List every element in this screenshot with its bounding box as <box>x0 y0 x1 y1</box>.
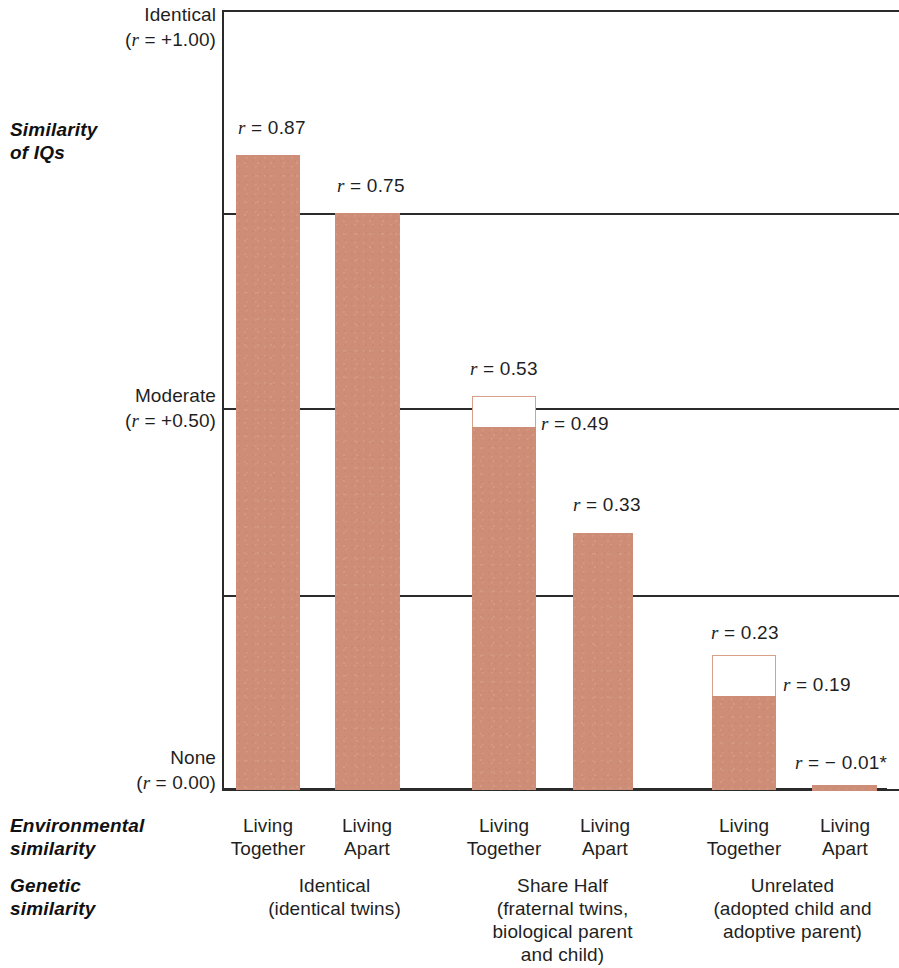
genetic-group-share-half: Share Half (fraternal twins, biological … <box>455 874 670 966</box>
gridline-baseline-0-00 <box>222 789 899 791</box>
bar-label-identical-together: r = 0.87 <box>238 117 306 139</box>
r-symbol: r <box>238 117 246 138</box>
bar-fill <box>335 213 400 790</box>
gridline-0-50 <box>222 408 899 410</box>
genetic-group-identical: Identical (identical twins) <box>232 874 437 920</box>
r-symbol: r <box>132 29 140 50</box>
r-symbol: r <box>783 674 791 695</box>
r-symbol: r <box>573 494 581 515</box>
bar-hollow-segment <box>472 396 536 427</box>
r-symbol: r <box>337 175 345 196</box>
r-symbol: r <box>795 752 803 773</box>
bar-label-identical-apart: r = 0.75 <box>337 175 405 197</box>
gridline-0-25 <box>222 595 899 597</box>
xlabel-living-apart-1: Living Apart <box>317 814 417 860</box>
genetic-group-unrelated: Unrelated (adopted child and adoptive pa… <box>690 874 895 943</box>
bar-identical-apart <box>335 213 400 790</box>
bar-sharehalf-apart <box>573 533 633 790</box>
xlabel-line1: Living <box>317 814 417 837</box>
xlabel-living-together-2: Living Together <box>449 814 559 860</box>
x-axis-env-title: Environmental similarity <box>10 814 145 860</box>
x-axis-gen-title-line1: Genetic <box>10 874 95 897</box>
genetic-group-line: Unrelated <box>690 874 895 897</box>
xlabel-line1: Living <box>795 814 895 837</box>
xlabel-line2: Apart <box>555 837 655 860</box>
xlabel-line1: Living <box>449 814 559 837</box>
ytick-none-line2: (r = 0.00) <box>16 770 216 795</box>
xlabel-line2: Apart <box>795 837 895 860</box>
r-symbol: r <box>132 410 140 431</box>
xlabel-line2: Together <box>689 837 799 860</box>
ytick-identical-line1: Identical <box>144 4 216 25</box>
xlabel-living-apart-2: Living Apart <box>555 814 655 860</box>
x-axis-env-title-line1: Environmental <box>10 814 145 837</box>
bar-unrelated-apart <box>812 785 877 791</box>
genetic-group-line: adoptive parent) <box>690 920 895 943</box>
bar-fill <box>573 533 633 790</box>
ytick-moderate-line1: Moderate <box>135 385 216 406</box>
x-axis-gen-title-line2: similarity <box>10 897 95 920</box>
ytick-moderate: Moderate (r = +0.50) <box>16 383 216 433</box>
r-symbol: r <box>711 622 719 643</box>
iq-similarity-bar-chart: Identical (r = +1.00) Moderate (r = +0.5… <box>0 0 899 968</box>
xlabel-living-together-1: Living Together <box>213 814 323 860</box>
x-axis-gen-title: Genetic similarity <box>10 874 95 920</box>
ytick-identical: Identical (r = +1.00) <box>16 2 216 52</box>
xlabel-line1: Living <box>213 814 323 837</box>
x-axis-env-title-line2: similarity <box>10 837 145 860</box>
bar-label-sharehalf-together-inner: r = 0.49 <box>541 413 609 435</box>
genetic-group-line: (identical twins) <box>232 897 437 920</box>
bar-label-unrelated-together: r = 0.23 <box>711 622 779 644</box>
xlabel-line2: Together <box>449 837 559 860</box>
genetic-group-line: (fraternal twins, <box>455 897 670 920</box>
bar-identical-together <box>236 155 300 790</box>
bar-fill <box>712 696 776 790</box>
bar-fill <box>236 155 300 790</box>
ytick-identical-line2: (r = +1.00) <box>16 27 216 52</box>
xlabel-line1: Living <box>555 814 655 837</box>
ytick-none-line1: None <box>170 747 216 768</box>
genetic-group-line: biological parent <box>455 920 670 943</box>
bar-hollow-segment <box>712 655 776 696</box>
axis-top-line <box>222 10 899 12</box>
bar-label-sharehalf-together: r = 0.53 <box>470 358 538 380</box>
y-axis-title: Similarity of IQs <box>10 118 98 164</box>
ytick-moderate-line2: (r = +0.50) <box>16 408 216 433</box>
gridline-0-75 <box>222 213 899 215</box>
xlabel-living-together-3: Living Together <box>689 814 799 860</box>
xlabel-line2: Apart <box>317 837 417 860</box>
genetic-group-line: and child) <box>455 943 670 966</box>
xlabel-line1: Living <box>689 814 799 837</box>
genetic-group-line: (adopted child and <box>690 897 895 920</box>
xlabel-line2: Together <box>213 837 323 860</box>
y-axis-title-line2: of IQs <box>10 141 98 164</box>
ytick-none: None (r = 0.00) <box>16 745 216 795</box>
xlabel-living-apart-3: Living Apart <box>795 814 895 860</box>
plot-area <box>222 10 887 790</box>
bar-sharehalf-together <box>472 396 536 790</box>
bar-label-unrelated-apart: r = − 0.01* <box>795 752 887 774</box>
genetic-group-line: Share Half <box>455 874 670 897</box>
bar-unrelated-together <box>712 655 776 790</box>
r-symbol: r <box>541 413 549 434</box>
r-symbol: r <box>470 358 478 379</box>
y-axis-title-line1: Similarity <box>10 118 98 141</box>
bar-label-sharehalf-apart: r = 0.33 <box>573 494 641 516</box>
bar-label-unrelated-together-inner: r = 0.19 <box>783 674 851 696</box>
genetic-group-line: Identical <box>232 874 437 897</box>
bar-fill <box>472 427 536 790</box>
